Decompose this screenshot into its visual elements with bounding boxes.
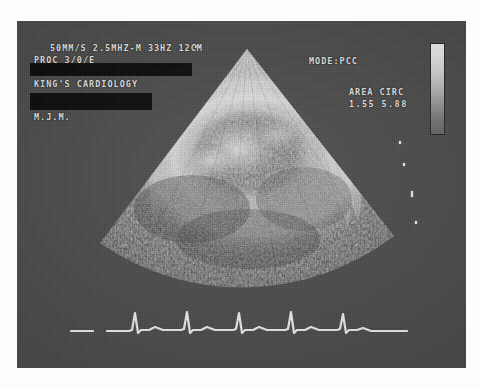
osd-scan-settings: 50MM/S 2.5MHZ-M 33HZ 12CM [50, 43, 203, 54]
depth-tick-marker [415, 221, 417, 224]
photograph-frame: 50MM/S 2.5MHZ-M 33HZ 12CM PROC 3/0/E KIN… [0, 0, 480, 388]
osd-mode-label: MODE:PCC [309, 56, 358, 67]
ultrasound-screen: 50MM/S 2.5MHZ-M 33HZ 12CM PROC 3/0/E KIN… [17, 21, 466, 368]
osd-measurement-values: 1.55 5.88 [349, 99, 408, 110]
depth-tick-marker [403, 163, 405, 166]
redaction-bar-patient-name [30, 63, 192, 76]
depth-tick-marker [399, 141, 401, 144]
redaction-bar-patient-id [30, 93, 152, 110]
ecg-trace [67, 303, 427, 345]
osd-measurement-label: AREA CIRC [349, 87, 404, 98]
depth-tick-marker [411, 191, 413, 197]
osd-operator-initials: M.J.M. [34, 112, 71, 123]
grayscale-calibration-bar [431, 44, 444, 134]
osd-clinic-name: KING'S CARDIOLOGY [34, 79, 138, 90]
